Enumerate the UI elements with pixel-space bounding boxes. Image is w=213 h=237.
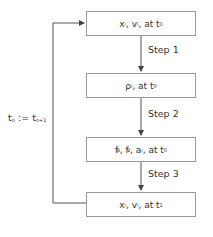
node-density-t0: ρi, at t0 xyxy=(86,73,196,98)
sub-i: i xyxy=(131,83,132,89)
node-forces-accel-t0: fip, fiv, ai, at t0 xyxy=(86,137,196,162)
sub-t: 0 xyxy=(164,147,167,153)
assign-op: := xyxy=(18,112,29,123)
node-positions-velocities-t0: xi, vi, at t0 xyxy=(86,11,196,36)
sub-n: n xyxy=(12,117,15,123)
time-update-label: tn := tn+1 xyxy=(8,112,46,123)
sup-v: v xyxy=(127,147,130,153)
sub-t: 0 xyxy=(160,21,163,27)
sub-i: i xyxy=(137,21,138,27)
at-time: at t xyxy=(144,19,159,29)
sup-p: p xyxy=(117,147,120,153)
sub-t: 0 xyxy=(154,83,157,89)
sub-t: 1 xyxy=(160,202,163,208)
at-time: at t xyxy=(148,145,163,155)
sub-i: i xyxy=(137,202,138,208)
sub-i: i xyxy=(141,147,142,153)
at-time: at t xyxy=(138,81,153,91)
sub-i: i xyxy=(125,202,126,208)
sub-i: i xyxy=(125,21,126,27)
loop-back-arrow xyxy=(53,23,86,203)
at-time: at t xyxy=(144,200,159,210)
sub-n-plus-1: n+1 xyxy=(36,117,47,123)
node-positions-velocities-t1: xi, vi, at t1 xyxy=(86,192,196,217)
step-1-label: Step 1 xyxy=(148,44,179,55)
step-2-label: Step 2 xyxy=(148,108,179,119)
step-3-label: Step 3 xyxy=(148,168,179,179)
